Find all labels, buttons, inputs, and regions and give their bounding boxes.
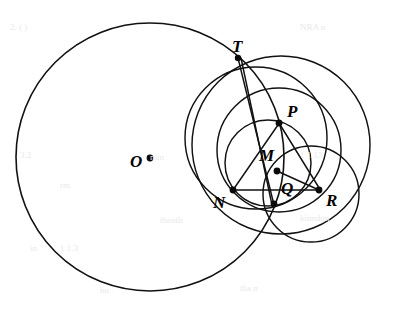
chord-T-to-Q-lower bbox=[241, 58, 272, 205]
point-label-N: N bbox=[213, 194, 225, 211]
point-dot-N bbox=[230, 187, 237, 194]
point-dot-R bbox=[316, 187, 323, 194]
point-label-P: P bbox=[287, 103, 297, 120]
point-label-O: O bbox=[130, 153, 142, 170]
point-dot-P bbox=[276, 120, 283, 127]
circle-through-T-N-Q bbox=[185, 67, 327, 209]
point-label-M: M bbox=[259, 147, 274, 164]
point-label-Q: Q bbox=[281, 180, 293, 197]
point-label-R: R bbox=[326, 192, 337, 209]
point-dot-Q bbox=[271, 201, 278, 208]
point-label-T: T bbox=[232, 38, 242, 55]
geometry-canvas bbox=[0, 0, 393, 315]
point-dot-M bbox=[274, 168, 281, 175]
point-dot-O bbox=[147, 155, 154, 162]
geometry-figure: 2. ( ) NRA n 3.2 min 1 1.13 rm thenth in… bbox=[0, 0, 393, 315]
